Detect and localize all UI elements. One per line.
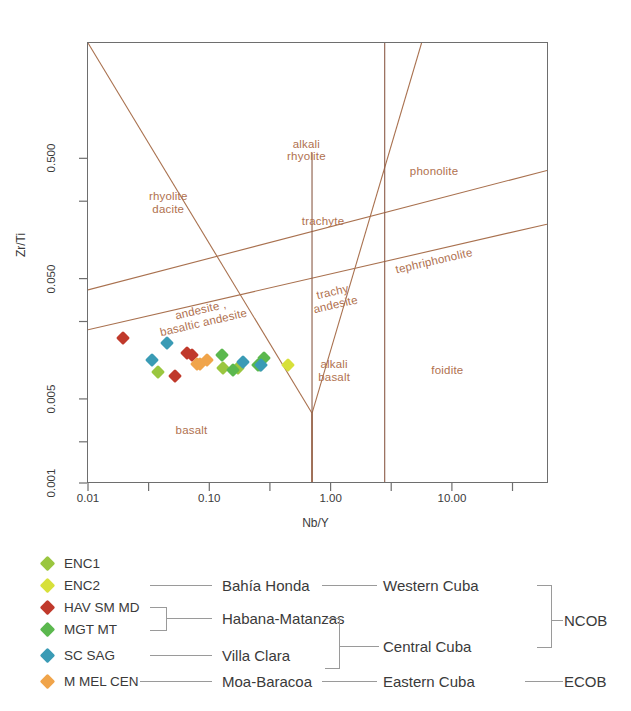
- x-tick-label: 0.10: [198, 492, 220, 504]
- legend-swatch: [40, 555, 56, 571]
- legend-swatch: [40, 647, 56, 663]
- legend-group-subregion: Central Cuba: [383, 638, 471, 655]
- legend-bracket: [325, 618, 340, 669]
- legend-entry[interactable]: SC SAG: [0, 644, 115, 666]
- legend-key-label: HAV SM MD: [64, 600, 140, 615]
- legend-connector: [525, 681, 563, 682]
- legend-group-subregion: Western Cuba: [383, 577, 479, 594]
- y-tick-label: 0.500: [37, 152, 66, 164]
- legend-group-region: Bahía Honda: [222, 577, 310, 594]
- plot-area: rhyolite dacitealkali rhyolitetrachyteph…: [87, 42, 548, 483]
- legend-connector: [339, 646, 379, 647]
- legend-connector: [322, 585, 377, 586]
- legend-key-label: MGT MT: [64, 622, 117, 637]
- legend-entry[interactable]: HAV SM MD: [0, 596, 140, 618]
- legend-connector: [551, 620, 563, 621]
- legend-group-region: Villa Clara: [222, 647, 290, 664]
- legend-swatch: [40, 577, 56, 593]
- field-boundary-verticals: [88, 43, 547, 482]
- legend-group-region: Moa-Baracoa: [222, 673, 312, 690]
- legend-swatch: [40, 673, 56, 689]
- legend-bracket: [537, 585, 552, 648]
- legend-entry[interactable]: ENC2: [0, 574, 100, 596]
- legend-group-belt: ECOB: [564, 673, 607, 690]
- legend-swatch: [40, 621, 56, 637]
- y-tick-label: 0.005: [37, 393, 66, 405]
- legend-connector: [166, 618, 212, 619]
- legend-key-label: SC SAG: [64, 648, 115, 663]
- x-tick-label: 1.00: [319, 492, 341, 504]
- x-tick-label: 10.00: [438, 492, 467, 504]
- legend-entry[interactable]: MGT MT: [0, 618, 117, 640]
- legend-group-subregion: Eastern Cuba: [383, 673, 475, 690]
- y-tick-label: 0.050: [37, 273, 66, 285]
- legend-key-label: ENC1: [64, 556, 100, 571]
- legend-swatch: [40, 599, 56, 615]
- legend-entry[interactable]: ENC1: [0, 552, 100, 574]
- legend-connector: [150, 585, 212, 586]
- legend-key-label: ENC2: [64, 578, 100, 593]
- legend-group-belt: NCOB: [564, 612, 607, 629]
- legend: ENC1ENC2HAV SM MDMGT MTSC SAGM MEL CENBa…: [0, 545, 631, 711]
- x-axis-label: Nb/Y: [0, 516, 631, 530]
- y-tick-label: 0.001: [37, 477, 66, 489]
- legend-key-label: M MEL CEN: [64, 674, 139, 689]
- legend-entry[interactable]: M MEL CEN: [0, 670, 139, 692]
- zr-ti-vs-nb-y-classification-figure: Zr/Ti 0.0010.0050.0500.500: [0, 0, 631, 711]
- legend-connector: [150, 655, 212, 656]
- legend-bracket: [150, 607, 167, 631]
- x-axis-tick-labels: 0.010.101.0010.00: [0, 492, 631, 512]
- x-tick-label: 0.01: [77, 492, 99, 504]
- legend-connector: [140, 681, 212, 682]
- legend-connector: [322, 681, 377, 682]
